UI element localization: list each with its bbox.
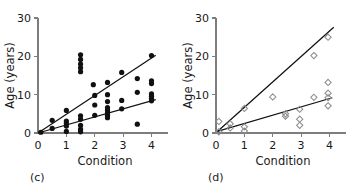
data-point [78,52,83,57]
data-point [91,82,96,87]
data-point [105,115,110,120]
x-tick-label-1: 1 [241,139,248,152]
x-tick-label-0: 0 [35,139,42,152]
data-point [311,94,317,100]
data-point [325,103,331,109]
regression-line-upper-regression [217,27,333,131]
x-tick-label-4: 4 [148,139,155,152]
data-point [149,53,154,58]
x-tick-label-2: 2 [91,139,98,152]
data-point [50,118,55,123]
panel-c: 010203001234ConditionAge (years)(c) [0,0,178,185]
data-point [38,130,43,135]
regression-line-lower-regression [217,98,332,132]
data-point [135,122,140,127]
data-point [135,76,140,81]
x-axis-title: Condition [78,154,133,168]
y-tick-label-20: 20 [17,50,31,63]
data-point [78,57,83,62]
data-point [105,92,110,97]
plot-area-c: 010203001234ConditionAge (years)(c) [0,0,178,185]
data-point [119,70,124,75]
x-axis-title: Condition [256,154,311,168]
x-tick-label-0: 0 [213,139,220,152]
data-point [64,129,69,134]
x-tick-label-4: 4 [326,139,333,152]
panel-tag: (d) [208,171,224,184]
y-tick-label-30: 30 [17,12,31,25]
data-point [119,106,124,111]
data-point [64,108,69,113]
data-point [282,113,288,119]
y-tick-label-20: 20 [195,50,209,63]
data-point [135,90,140,95]
data-point [149,98,154,103]
panel-tag: (c) [30,171,45,184]
y-axis-title: Age (years) [181,42,195,109]
y-tick-label-0: 0 [202,127,209,140]
data-point [105,99,110,104]
data-point [92,113,97,118]
x-tick-label-3: 3 [298,139,305,152]
y-tick-label-10: 10 [195,89,209,102]
data-point [149,81,154,86]
data-point [325,79,331,85]
data-point [50,126,55,131]
data-point [92,102,97,107]
data-point [64,124,69,129]
data-point [270,94,276,100]
data-point [119,98,124,103]
data-point [297,122,303,128]
figure-container: 010203001234ConditionAge (years)(c) 0102… [0,0,356,185]
plot-area-d: 010203001234ConditionAge (years)(d) [178,0,356,185]
x-tick-label-2: 2 [269,139,276,152]
y-tick-label-30: 30 [195,12,209,25]
data-point [78,117,83,122]
y-tick-label-0: 0 [24,127,31,140]
y-axis-title: Age (years) [3,42,17,109]
data-point [78,69,83,74]
x-tick-label-1: 1 [63,139,70,152]
data-point [297,116,303,122]
data-point [216,118,222,124]
data-point [78,129,83,134]
panel-d: 010203001234ConditionAge (years)(d) [178,0,356,185]
x-tick-label-3: 3 [120,139,127,152]
data-point [311,52,317,58]
y-tick-label-10: 10 [17,89,31,102]
data-point [105,80,110,85]
data-point [92,93,97,98]
